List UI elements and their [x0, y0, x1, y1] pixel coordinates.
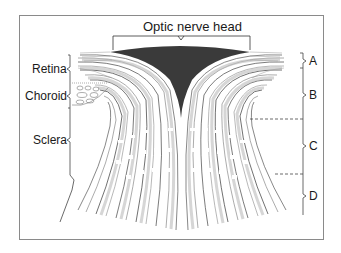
choroid-label: Choroid	[25, 90, 67, 102]
nerve-fibers-left	[78, 55, 178, 230]
retina-fibers-right	[250, 52, 284, 78]
retina-label: Retina	[32, 63, 67, 75]
sclera-label: Sclera	[33, 134, 67, 146]
region-a-label: A	[309, 55, 317, 67]
nerve-fibers-right-fill	[189, 60, 282, 229]
retina-fibers	[78, 52, 112, 78]
optic-nerve-illustration	[0, 0, 341, 253]
region-b-label: B	[309, 89, 317, 101]
region-c-label: C	[309, 140, 318, 152]
region-d-label: D	[309, 190, 318, 202]
choroid-vessels	[72, 83, 108, 105]
optic-nerve-head-label: Optic nerve head	[143, 20, 242, 33]
